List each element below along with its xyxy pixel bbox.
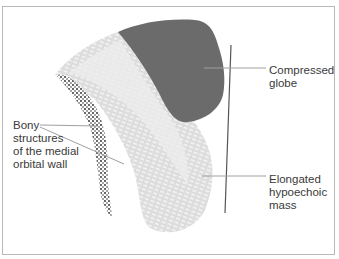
label-compressed-globe: Compressed globe — [269, 64, 334, 90]
label-hypoechoic-mass: Elongated hypoechoic mass — [269, 173, 327, 212]
label-bony-structures: Bony structures of the medial orbital wa… — [13, 119, 79, 171]
reference-line — [225, 45, 231, 213]
